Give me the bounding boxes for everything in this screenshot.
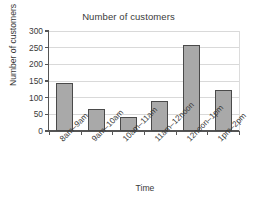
y-tick-label: 300 (9, 26, 43, 36)
bar-chart: Number of customers Number of customers … (0, 0, 257, 201)
y-tick-label: 50 (9, 109, 43, 119)
y-tick-label: 0 (9, 126, 43, 136)
chart-title: Number of customers (0, 11, 257, 22)
y-tick-label: 150 (9, 76, 43, 86)
x-axis-labels: 8am–9am9am–10am10am–11am11am–12noon12noo… (48, 131, 238, 183)
x-tick-mark (239, 131, 240, 135)
y-tick-label: 250 (9, 43, 43, 53)
x-axis-title: Time (45, 183, 245, 193)
y-tick-label: 200 (9, 59, 43, 69)
y-tick-label: 100 (9, 93, 43, 103)
bar (183, 45, 200, 131)
